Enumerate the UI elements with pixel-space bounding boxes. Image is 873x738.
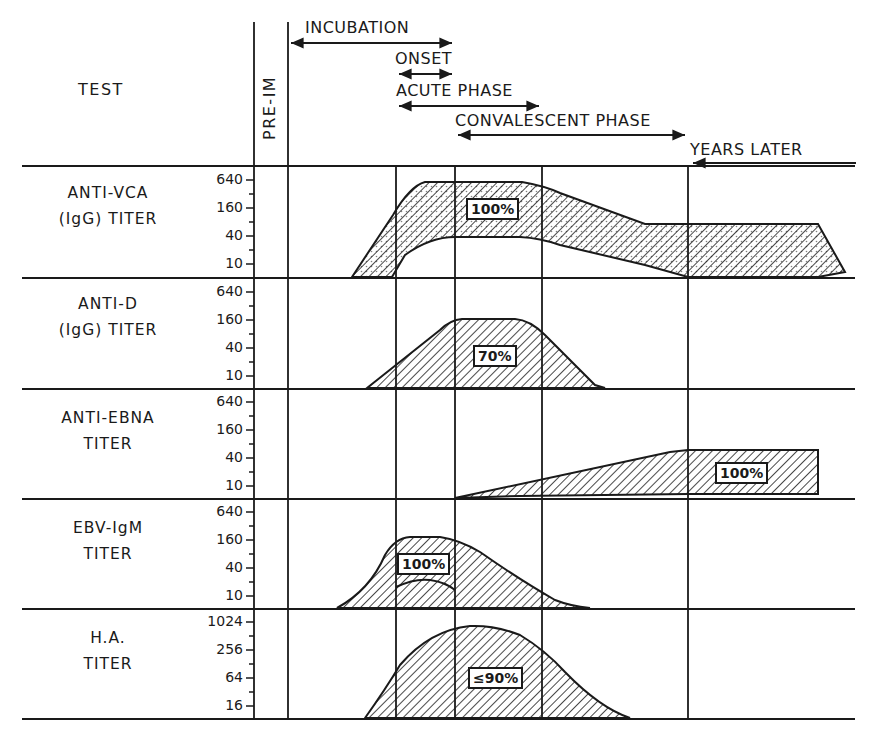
percent-badge-anti-d: 70% — [473, 345, 517, 367]
y-tick-label: 160 — [193, 311, 243, 327]
test-name-line: TITER — [8, 651, 208, 677]
percent-badge-anti-vca: 100% — [466, 198, 519, 220]
test-name-line: (IgG) TITER — [8, 317, 208, 343]
test-name-line: TITER — [8, 541, 208, 567]
y-tick-label: 640 — [193, 393, 243, 409]
phase-label-incubation: INCUBATION — [305, 18, 409, 37]
y-tick-label: 10 — [193, 477, 243, 493]
phase-label-years-later: YEARS LATER — [690, 140, 803, 159]
y-axis-ticks — [246, 180, 254, 706]
test-name-line: TITER — [8, 431, 208, 457]
y-tick-label: 16 — [193, 697, 243, 713]
y-tick-label: 40 — [193, 227, 243, 243]
percent-badge-ha: ≤90% — [468, 667, 523, 689]
y-tick-label: 64 — [193, 669, 243, 685]
phase-label-acute: ACUTE PHASE — [396, 81, 513, 100]
test-name-line: ANTI-VCA — [8, 180, 208, 206]
phase-label-onset: ONSET — [395, 49, 452, 68]
test-name-line: H.A. — [8, 625, 208, 651]
y-tick-label: 160 — [193, 199, 243, 215]
curve-ebv-igm — [337, 537, 590, 608]
y-tick-label: 40 — [193, 559, 243, 575]
y-tick-label: 160 — [193, 531, 243, 547]
test-name-line: (IgG) TITER — [8, 206, 208, 232]
test-name-line: EBV-IgM — [8, 515, 208, 541]
test-name-anti-vca: ANTI-VCA (IgG) TITER — [8, 180, 208, 232]
y-tick-label: 640 — [193, 283, 243, 299]
y-tick-label: 640 — [193, 171, 243, 187]
y-tick-label: 640 — [193, 503, 243, 519]
y-tick-label: 1024 — [193, 613, 243, 629]
y-tick-label: 40 — [193, 339, 243, 355]
y-tick-label: 10 — [193, 367, 243, 383]
curve-anti-vca — [352, 182, 845, 277]
y-tick-label: 256 — [193, 641, 243, 657]
test-name-line: ANTI-D — [8, 291, 208, 317]
test-column-header: TEST — [78, 80, 124, 99]
percent-badge-ebv-igm: 100% — [397, 553, 450, 575]
y-tick-label: 40 — [193, 449, 243, 465]
percent-badge-anti-ebna: 100% — [715, 462, 768, 484]
y-tick-label: 10 — [193, 587, 243, 603]
test-name-ha: H.A. TITER — [8, 625, 208, 677]
pre-im-label: PRE-IM — [260, 76, 279, 140]
test-name-anti-d: ANTI-D (IgG) TITER — [8, 291, 208, 343]
test-name-line: ANTI-EBNA — [8, 405, 208, 431]
test-name-anti-ebna: ANTI-EBNA TITER — [8, 405, 208, 457]
y-tick-label: 160 — [193, 421, 243, 437]
test-name-ebv-igm: EBV-IgM TITER — [8, 515, 208, 567]
y-tick-label: 10 — [193, 255, 243, 271]
phase-label-convalescent: CONVALESCENT PHASE — [455, 111, 651, 130]
